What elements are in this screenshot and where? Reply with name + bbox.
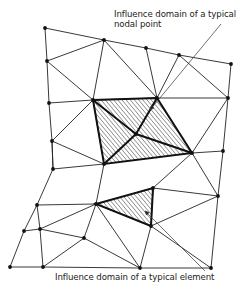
mesh-node [226, 96, 230, 100]
mesh-edge [40, 204, 96, 229]
nodal-label-line1: Influence domain of a typical [114, 9, 236, 19]
mesh-edge [153, 188, 218, 196]
mesh-node [82, 236, 86, 240]
mesh-edge [218, 151, 223, 196]
mesh-edge [37, 204, 96, 205]
mesh-edge [45, 28, 47, 61]
mesh-edge [24, 229, 40, 231]
mesh-edge [211, 196, 218, 268]
mesh-node [51, 167, 55, 171]
mesh-edge [37, 169, 53, 205]
mesh-edge [140, 226, 151, 268]
mesh-edge [228, 64, 231, 98]
mesh-edge [45, 28, 104, 40]
mesh-edge [96, 164, 104, 204]
mesh-edge [52, 100, 93, 141]
mesh-node [45, 59, 49, 63]
mesh-node [221, 149, 225, 153]
mesh-edge [153, 153, 192, 188]
mesh-node [216, 194, 220, 198]
element-leader-line [145, 211, 205, 271]
mesh-edge [24, 205, 37, 231]
mesh-node [38, 227, 42, 231]
mesh-node [8, 265, 12, 269]
mesh-edge [40, 229, 43, 267]
mesh-edge [43, 267, 140, 268]
mesh-node [41, 265, 45, 269]
mesh-node [94, 202, 98, 206]
mesh-edge [53, 164, 104, 169]
mesh-edge [40, 229, 84, 238]
mesh-edge [192, 98, 228, 153]
mesh-edge [47, 40, 104, 61]
mesh-edge [84, 238, 140, 268]
mesh-edge [157, 55, 179, 98]
mesh-edge [52, 141, 104, 164]
mesh-edge [47, 61, 49, 103]
mesh-node [102, 38, 106, 42]
mesh-node [47, 101, 51, 105]
nodal-point-domain-label: Influence domain of a typical nodal poin… [114, 9, 236, 29]
mesh-node [138, 266, 142, 270]
mesh-edge [179, 55, 228, 98]
mesh-node [209, 266, 213, 270]
mesh-node [144, 46, 148, 50]
hatched-regions [93, 98, 192, 226]
mesh-node [149, 224, 153, 228]
mesh-edge [93, 40, 104, 100]
mesh-node [102, 162, 106, 166]
mesh-edge [37, 205, 40, 229]
mesh-node [177, 53, 181, 57]
mesh-edge [43, 238, 84, 267]
mesh-edge [179, 55, 231, 64]
fem-mesh-diagram [0, 0, 239, 287]
nodal-label-line2: nodal point [114, 19, 236, 29]
mesh-edge [84, 204, 96, 238]
mesh-node [91, 98, 95, 102]
mesh-edge [10, 231, 24, 267]
element-domain-label: Influence domain of a typical element [55, 272, 214, 282]
mesh-edge [49, 103, 52, 141]
mesh-edge [52, 141, 53, 169]
mesh-node [35, 203, 39, 207]
mesh-node [22, 229, 26, 233]
mesh-edge [151, 196, 218, 226]
nodal-leader-line [150, 24, 221, 110]
mesh-edge [192, 153, 218, 196]
mesh-edge [47, 61, 93, 100]
mesh-node [229, 62, 233, 66]
mesh-node [43, 26, 47, 30]
mesh-node [155, 96, 159, 100]
mesh-edge [146, 48, 179, 55]
mesh-edge [223, 98, 228, 151]
mesh-node [190, 151, 194, 155]
mesh-node [134, 132, 138, 136]
mesh-node [50, 139, 54, 143]
mesh-edge [49, 100, 93, 103]
mesh-edge [146, 48, 157, 98]
mesh-edge [192, 151, 223, 153]
mesh-node [151, 186, 155, 190]
